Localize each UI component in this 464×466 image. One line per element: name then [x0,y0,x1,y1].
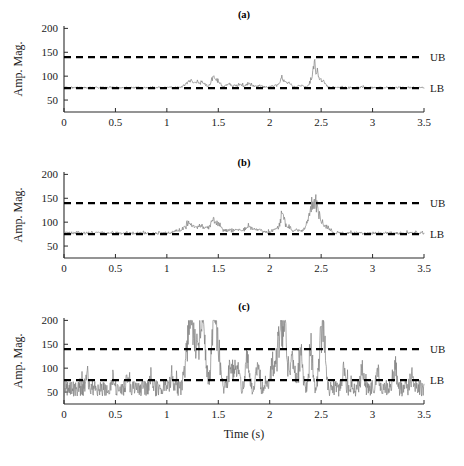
x-tick-label: 2.5 [314,408,328,420]
lower-bound-label: LB [430,228,444,240]
y-tick-label: 150 [42,338,59,350]
x-tick-label: 3 [370,408,376,420]
lower-bound-label: LB [430,374,444,386]
lower-bound-label: LB [430,82,444,94]
y-tick-label: 200 [42,22,59,34]
upper-bound-label: UB [430,343,445,355]
x-tick-label: 0.5 [109,262,123,274]
x-tick-label: 0 [61,116,67,128]
x-axis-title: Time (s) [224,427,265,441]
y-tick-label: 100 [42,216,59,228]
x-tick-label: 1 [164,408,170,420]
y-tick-label: 50 [47,94,59,106]
y-axis-title: Amp. Mag. [11,188,25,243]
panel-a: (a)5010015020000.511.522.533.5Amp. Mag.U… [0,0,464,150]
x-tick-label: 1.5 [211,408,225,420]
panel-c-plot: (c)5010015020000.511.522.533.5Amp. Mag.T… [0,292,464,466]
x-tick-label: 1.5 [211,262,225,274]
x-tick-label: 2 [267,408,273,420]
x-tick-label: 3.5 [417,262,431,274]
panel-b: (b)5010015020000.511.522.533.5Amp. Mag.U… [0,150,464,292]
signal-trace [64,320,424,396]
signal-trace [64,195,424,235]
upper-bound-label: UB [430,51,445,63]
panel-title: (b) [238,157,251,169]
signal-trace [64,59,424,88]
x-tick-label: 3.5 [417,116,431,128]
x-tick-label: 0.5 [109,408,123,420]
y-tick-label: 150 [42,46,59,58]
x-tick-label: 0.5 [109,116,123,128]
y-tick-label: 100 [42,70,59,82]
x-tick-label: 1 [164,262,170,274]
x-tick-label: 0 [61,408,67,420]
upper-bound-label: UB [430,197,445,209]
x-tick-label: 2.5 [314,116,328,128]
x-tick-label: 2 [267,116,273,128]
x-tick-label: 3 [370,116,376,128]
panel-b-plot: (b)5010015020000.511.522.533.5Amp. Mag.U… [0,150,464,292]
x-tick-label: 3.5 [417,408,431,420]
panel-title: (c) [238,301,250,313]
y-tick-label: 200 [42,168,59,180]
figure-container: (a)5010015020000.511.522.533.5Amp. Mag.U… [0,0,464,466]
x-tick-label: 0 [61,262,67,274]
y-axis-title: Amp. Mag. [11,42,25,97]
x-tick-label: 2 [267,262,273,274]
y-tick-label: 100 [42,362,59,374]
x-tick-label: 3 [370,262,376,274]
y-axis-title: Amp. Mag. [11,334,25,389]
panel-a-plot: (a)5010015020000.511.522.533.5Amp. Mag.U… [0,0,464,150]
x-tick-label: 2.5 [314,262,328,274]
y-tick-label: 50 [47,386,59,398]
panel-title: (a) [238,9,251,21]
y-tick-label: 50 [47,240,59,252]
y-tick-label: 200 [42,314,59,326]
x-tick-label: 1.5 [211,116,225,128]
y-tick-label: 150 [42,192,59,204]
panel-c: (c)5010015020000.511.522.533.5Amp. Mag.T… [0,292,464,466]
x-tick-label: 1 [164,116,170,128]
